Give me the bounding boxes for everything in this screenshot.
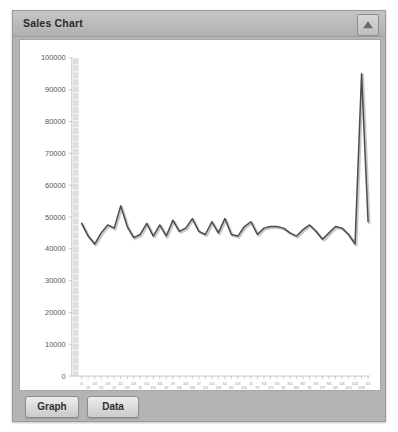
svg-text:3/26: 3/26 [157,382,163,386]
data-button[interactable]: Data [87,396,139,418]
svg-text:9/24: 9/24 [326,382,332,386]
svg-text:3/5: 3/5 [138,387,142,390]
svg-text:7/23: 7/23 [268,387,274,390]
chart-plot-area: 0100002000030000400005000060000700008000… [19,39,381,391]
svg-text:10000: 10000 [45,340,66,349]
svg-text:7/16: 7/16 [261,382,267,386]
svg-text:1/22: 1/22 [99,387,105,390]
svg-text:90000: 90000 [45,85,66,94]
svg-text:8/6: 8/6 [282,387,286,390]
svg-text:100000: 100000 [41,53,66,62]
svg-text:6/4: 6/4 [223,382,227,386]
svg-text:7/2: 7/2 [249,382,253,386]
svg-text:4/23: 4/23 [183,382,189,386]
svg-text:5/28: 5/28 [216,387,222,390]
svg-text:9/17: 9/17 [320,387,326,390]
svg-text:10/22: 10/22 [352,382,359,386]
svg-text:0: 0 [62,372,66,381]
svg-text:9/3: 9/3 [308,387,312,390]
svg-text:5/21: 5/21 [209,382,215,386]
svg-text:4/30: 4/30 [190,387,196,390]
svg-text:50000: 50000 [45,213,66,222]
svg-text:10/29: 10/29 [358,387,365,390]
svg-text:1/15: 1/15 [92,382,98,386]
svg-text:8/13: 8/13 [287,382,293,386]
svg-text:4/16: 4/16 [177,387,183,390]
panel-titlebar: Sales Chart [13,11,385,37]
panel-toolbar: Graph Data [13,391,385,421]
svg-text:1/29: 1/29 [105,382,111,386]
svg-text:11/5: 11/5 [366,382,371,386]
collapse-panel-button[interactable] [357,14,379,36]
svg-text:1/1: 1/1 [80,382,84,386]
svg-text:10/8: 10/8 [340,382,346,386]
svg-text:3/12: 3/12 [144,382,150,386]
svg-text:7/9: 7/9 [256,387,260,390]
svg-text:10/15: 10/15 [345,387,352,390]
svg-text:40000: 40000 [45,244,66,253]
sales-chart-panel: Sales Chart 0100002000030000400005000060… [12,10,386,422]
svg-text:7/30: 7/30 [274,382,280,386]
svg-text:10/1: 10/1 [333,387,339,390]
svg-text:8/20: 8/20 [294,387,300,390]
svg-text:6/25: 6/25 [242,387,248,390]
triangle-up-icon [363,21,373,28]
sales-line-chart: 0100002000030000400005000060000700008000… [20,40,380,390]
svg-text:3/19: 3/19 [151,387,157,390]
svg-text:5/14: 5/14 [203,387,209,390]
svg-text:60000: 60000 [45,181,66,190]
svg-text:1/8: 1/8 [86,387,90,390]
svg-text:2/26: 2/26 [131,382,137,386]
svg-text:70000: 70000 [45,149,66,158]
svg-text:6/18: 6/18 [235,382,241,386]
graph-button[interactable]: Graph [25,396,79,418]
svg-text:80000: 80000 [45,117,66,126]
svg-text:8/27: 8/27 [300,382,306,386]
svg-text:20000: 20000 [45,308,66,317]
svg-text:2/12: 2/12 [118,382,124,386]
svg-text:6/11: 6/11 [229,387,234,390]
svg-text:2/5: 2/5 [112,387,116,390]
svg-text:4/9: 4/9 [171,382,175,386]
svg-text:30000: 30000 [45,276,66,285]
svg-text:4/2: 4/2 [164,387,168,390]
panel-title: Sales Chart [23,17,83,29]
svg-text:9/10: 9/10 [313,382,319,386]
svg-text:5/7: 5/7 [197,382,201,386]
svg-text:2/19: 2/19 [125,387,131,390]
